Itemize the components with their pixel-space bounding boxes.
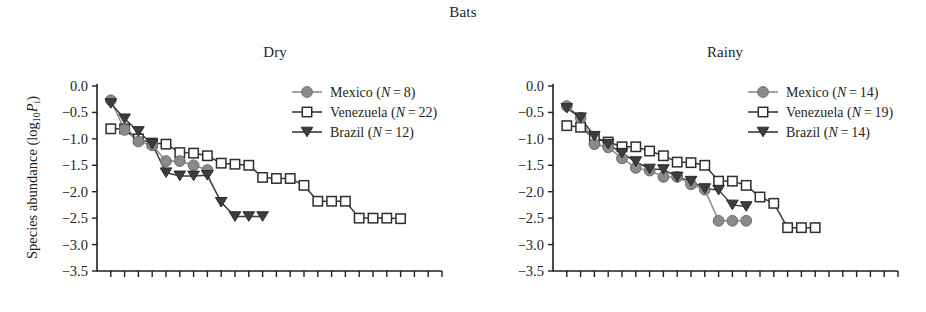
data-point-venezuela-rainy bbox=[562, 121, 571, 130]
data-point-venezuela-dry bbox=[272, 174, 281, 183]
legend-label-brazil-rainy: Brazil (N = 14) bbox=[786, 125, 870, 141]
legend-marker-mexico-rainy bbox=[758, 87, 769, 98]
y-tick-label: −2.5 bbox=[518, 210, 544, 226]
legend-label-mexico-rainy: Mexico (N = 14) bbox=[786, 85, 879, 101]
data-point-venezuela-rainy bbox=[673, 157, 682, 166]
data-point-venezuela-rainy bbox=[742, 181, 751, 190]
data-point-venezuela-dry bbox=[368, 213, 377, 222]
data-point-mexico-rainy bbox=[727, 215, 738, 226]
data-point-venezuela-dry bbox=[230, 160, 239, 169]
data-point-venezuela-dry bbox=[396, 214, 405, 223]
data-point-mexico-dry bbox=[188, 160, 199, 171]
data-point-venezuela-dry bbox=[341, 197, 350, 206]
data-point-venezuela-rainy bbox=[686, 158, 695, 167]
legend-label-mexico-dry: Mexico (N = 8) bbox=[330, 85, 416, 101]
data-point-venezuela-dry bbox=[327, 197, 336, 206]
panel-rainy: 0.0−0.5−1.0−1.5−2.0−2.5−3.0−3.5Mexico (N… bbox=[518, 78, 898, 279]
data-point-venezuela-dry bbox=[217, 158, 226, 167]
y-tick-label: −3.0 bbox=[62, 237, 88, 253]
y-tick-label: 0.0 bbox=[70, 78, 88, 94]
data-point-venezuela-rainy bbox=[714, 176, 723, 185]
y-tick-label: −2.5 bbox=[62, 210, 88, 226]
data-point-mexico-dry bbox=[133, 136, 144, 147]
data-point-venezuela-rainy bbox=[728, 176, 737, 185]
y-tick-label: −1.5 bbox=[518, 157, 544, 173]
y-tick-label: −1.0 bbox=[62, 131, 88, 147]
data-point-venezuela-dry bbox=[313, 197, 322, 206]
series-line-mexico-rainy bbox=[567, 106, 746, 221]
panel-dry: 0.0−0.5−1.0−1.5−2.0−2.5−3.0−3.5Mexico (N… bbox=[62, 78, 442, 279]
y-tick-label: 0.0 bbox=[526, 78, 544, 94]
y-tick-label: −3.5 bbox=[518, 263, 544, 279]
data-point-venezuela-rainy bbox=[659, 151, 668, 160]
legend-label-brazil-dry: Brazil (N = 12) bbox=[330, 125, 414, 141]
data-point-venezuela-dry bbox=[203, 151, 212, 160]
legend-label-venezuela-rainy: Venezuela (N = 19) bbox=[786, 105, 894, 121]
data-point-venezuela-dry bbox=[189, 148, 198, 157]
legend-marker-venezuela-rainy bbox=[758, 107, 767, 116]
data-point-venezuela-dry bbox=[161, 139, 170, 148]
data-point-venezuela-rainy bbox=[811, 223, 820, 232]
figure-container: Bats Dry Rainy Species abundance (log10P… bbox=[0, 0, 926, 312]
data-point-venezuela-dry bbox=[106, 124, 115, 133]
legend-marker-venezuela-dry bbox=[302, 107, 311, 116]
data-point-venezuela-dry bbox=[299, 181, 308, 190]
data-point-venezuela-dry bbox=[286, 174, 295, 183]
data-point-mexico-rainy bbox=[741, 215, 752, 226]
data-point-venezuela-rainy bbox=[631, 142, 640, 151]
y-tick-label: −2.0 bbox=[62, 184, 88, 200]
data-point-venezuela-rainy bbox=[576, 123, 585, 132]
data-point-venezuela-rainy bbox=[755, 192, 764, 201]
y-tick-label: −1.5 bbox=[62, 157, 88, 173]
data-point-venezuela-dry bbox=[244, 161, 253, 170]
data-point-venezuela-dry bbox=[382, 213, 391, 222]
data-point-mexico-dry bbox=[119, 124, 130, 135]
y-tick-label: −0.5 bbox=[518, 104, 544, 120]
data-point-mexico-dry bbox=[174, 156, 185, 167]
y-tick-label: −3.0 bbox=[518, 237, 544, 253]
data-point-brazil-dry bbox=[160, 168, 172, 178]
plot-canvas: 0.0−0.5−1.0−1.5−2.0−2.5−3.0−3.5Mexico (N… bbox=[0, 0, 926, 312]
data-point-venezuela-dry bbox=[355, 213, 364, 222]
data-point-venezuela-rainy bbox=[797, 223, 806, 232]
data-point-venezuela-rainy bbox=[783, 223, 792, 232]
legend-marker-mexico-dry bbox=[302, 87, 313, 98]
data-point-mexico-rainy bbox=[713, 215, 724, 226]
data-point-mexico-dry bbox=[161, 156, 172, 167]
y-tick-label: −0.5 bbox=[62, 104, 88, 120]
y-tick-label: −2.0 bbox=[518, 184, 544, 200]
data-point-venezuela-rainy bbox=[769, 199, 778, 208]
data-point-venezuela-rainy bbox=[645, 146, 654, 155]
data-point-venezuela-dry bbox=[258, 173, 267, 182]
y-tick-label: −3.5 bbox=[62, 263, 88, 279]
legend-label-venezuela-dry: Venezuela (N = 22) bbox=[330, 105, 438, 121]
data-point-venezuela-rainy bbox=[700, 161, 709, 170]
y-tick-label: −1.0 bbox=[518, 131, 544, 147]
